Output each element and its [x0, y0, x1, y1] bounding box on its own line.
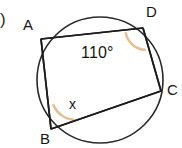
angle-measure-d: 110° — [81, 45, 114, 61]
edge-ba — [41, 39, 51, 129]
geometry-figure: ) A B C D 110° x — [0, 0, 182, 148]
vertex-label-d: D — [146, 4, 157, 19]
edge-cb — [51, 91, 161, 129]
angle-unknown-x: x — [69, 97, 76, 111]
vertex-label-b: B — [40, 131, 50, 146]
vertex-label-a: A — [23, 17, 33, 32]
vertex-label-c: C — [167, 82, 178, 97]
edge-dc — [143, 28, 161, 91]
angle-arc-d — [126, 33, 145, 50]
circumcircle — [37, 17, 163, 143]
